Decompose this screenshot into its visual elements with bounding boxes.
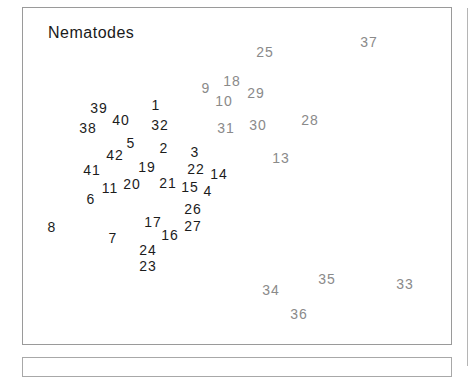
point-label: 38 xyxy=(79,121,97,135)
point-label: 17 xyxy=(144,215,162,229)
point-label: 32 xyxy=(151,118,169,132)
chart-title: Nematodes xyxy=(48,24,134,42)
point-label: 10 xyxy=(215,94,233,108)
point-label: 19 xyxy=(138,160,156,174)
point-label: 37 xyxy=(360,35,378,49)
point-label: 11 xyxy=(102,181,119,195)
point-label: 5 xyxy=(127,136,136,150)
adjacent-panel-border xyxy=(467,8,468,366)
point-label: 4 xyxy=(204,184,213,198)
point-label: 40 xyxy=(112,113,130,127)
point-label: 16 xyxy=(161,228,179,242)
point-label: 35 xyxy=(318,272,336,286)
point-label: 22 xyxy=(187,162,205,176)
point-label: 33 xyxy=(396,277,414,291)
point-label: 25 xyxy=(256,45,274,59)
point-label: 20 xyxy=(123,177,141,191)
point-label: 2 xyxy=(160,141,169,155)
point-label: 24 xyxy=(139,243,157,257)
point-label: 15 xyxy=(181,180,199,194)
point-label: 21 xyxy=(159,176,177,190)
point-label: 41 xyxy=(83,163,101,177)
point-label: 8 xyxy=(48,220,57,234)
point-label: 9 xyxy=(202,81,211,95)
point-label: 26 xyxy=(184,202,202,216)
point-label: 6 xyxy=(87,192,96,206)
point-label: 36 xyxy=(290,307,308,321)
point-label: 13 xyxy=(272,151,290,165)
point-label: 34 xyxy=(262,283,280,297)
point-label: 28 xyxy=(301,113,319,127)
point-label: 1 xyxy=(152,98,161,112)
next-plot-panel xyxy=(22,357,452,377)
point-label: 31 xyxy=(217,121,235,135)
point-label: 42 xyxy=(106,148,124,162)
point-label: 27 xyxy=(184,219,202,233)
point-label: 30 xyxy=(249,118,267,132)
point-label: 29 xyxy=(247,86,265,100)
point-label: 3 xyxy=(191,145,200,159)
point-label: 39 xyxy=(90,101,108,115)
point-label: 7 xyxy=(109,231,118,245)
point-label: 23 xyxy=(139,259,157,273)
point-label: 14 xyxy=(210,167,228,181)
point-label: 18 xyxy=(223,74,241,88)
